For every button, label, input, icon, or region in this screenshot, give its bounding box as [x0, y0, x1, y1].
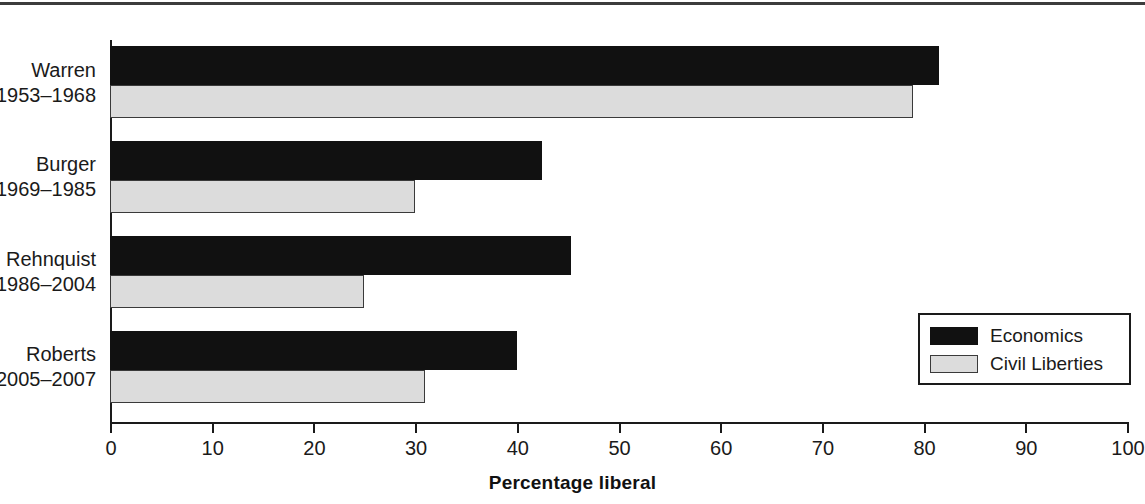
x-tick-label-30: 30: [405, 436, 427, 460]
x-tick-20: [313, 424, 315, 433]
x-tick-30: [415, 424, 417, 433]
chart-legend: Economics Civil Liberties: [918, 313, 1131, 385]
category-name: Roberts: [0, 342, 96, 367]
category-name: Burger: [0, 152, 96, 177]
x-tick-label-40: 40: [507, 436, 529, 460]
bar-roberts-economics: [110, 331, 517, 370]
x-tick-label-80: 80: [913, 436, 935, 460]
legend-item-civil-liberties: Civil Liberties: [930, 350, 1119, 378]
category-label-burger: Burger 1969–1985: [0, 152, 96, 202]
legend-label-civil-liberties: Civil Liberties: [990, 353, 1103, 375]
x-tick-50: [619, 424, 621, 433]
category-years: 1969–1985: [0, 177, 96, 202]
legend-swatch-civil-liberties-icon: [930, 355, 978, 373]
bar-rehnquist-civil-liberties: [110, 275, 364, 308]
x-tick-label-70: 70: [812, 436, 834, 460]
x-tick-0: [110, 424, 112, 433]
category-years: 1953–1968: [0, 83, 96, 108]
category-label-rehnquist: Rehnquist 1986–2004: [0, 247, 96, 297]
x-tick-label-100: 100: [1111, 436, 1144, 460]
bar-warren-civil-liberties: [110, 85, 913, 118]
x-tick-label-50: 50: [608, 436, 630, 460]
category-name: Warren: [0, 58, 96, 83]
x-tick-label-60: 60: [710, 436, 732, 460]
bar-burger-economics: [110, 141, 542, 180]
bar-roberts-civil-liberties: [110, 370, 425, 403]
bar-burger-civil-liberties: [110, 180, 415, 213]
legend-swatch-economics-icon: [930, 327, 978, 345]
category-years: 1986–2004: [0, 272, 96, 297]
category-label-warren: Warren 1953–1968: [0, 58, 96, 108]
x-tick-label-0: 0: [105, 436, 116, 460]
legend-label-economics: Economics: [990, 325, 1083, 347]
bar-rehnquist-economics: [110, 236, 571, 275]
category-name: Rehnquist: [0, 247, 96, 272]
category-label-roberts: Roberts 2005–2007: [0, 342, 96, 392]
x-tick-label-20: 20: [303, 436, 325, 460]
x-tick-80: [924, 424, 926, 433]
legend-item-economics: Economics: [930, 322, 1119, 350]
category-years: 2005–2007: [0, 367, 96, 392]
x-tick-90: [1025, 424, 1027, 433]
bar-chart-figure: Warren 1953–1968 Burger 1969–1985 Rehnqu…: [0, 0, 1145, 504]
x-tick-label-90: 90: [1015, 436, 1037, 460]
x-tick-40: [517, 424, 519, 433]
top-divider-rule: [0, 2, 1145, 5]
x-tick-label-10: 10: [202, 436, 224, 460]
x-tick-70: [822, 424, 824, 433]
bar-warren-economics: [110, 46, 939, 85]
x-tick-100: [1127, 424, 1129, 433]
x-tick-60: [720, 424, 722, 433]
x-tick-10: [212, 424, 214, 433]
x-axis-title: Percentage liberal: [0, 472, 1145, 494]
